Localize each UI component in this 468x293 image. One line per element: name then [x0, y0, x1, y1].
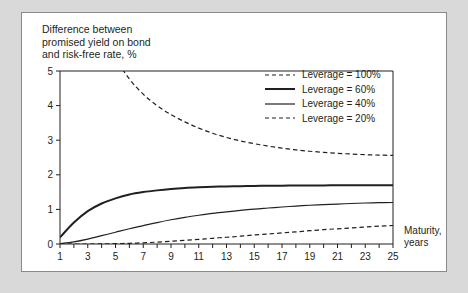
figure-panel: Difference between promised yield on bon… — [21, 12, 447, 272]
svg-text:5: 5 — [47, 66, 53, 77]
chart-legend: Leverage = 100% Leverage = 60% Leverage … — [265, 68, 415, 126]
svg-text:4: 4 — [47, 100, 53, 111]
svg-text:5: 5 — [113, 251, 119, 262]
svg-text:25: 25 — [387, 251, 399, 262]
series-line — [60, 225, 393, 244]
x-axis-label: Maturity, years — [404, 225, 442, 249]
legend-key-solid-thick-icon — [265, 84, 295, 94]
legend-item: Leverage = 100% — [265, 68, 415, 81]
legend-key-solid-thin-icon — [265, 99, 295, 109]
legend-item: Leverage = 40% — [265, 97, 415, 110]
svg-text:9: 9 — [168, 251, 174, 262]
plot-area: 012345135791113151719212325 — [22, 13, 448, 273]
svg-text:7: 7 — [140, 251, 146, 262]
svg-text:19: 19 — [304, 251, 316, 262]
legend-item: Leverage = 20% — [265, 112, 415, 125]
legend-key-dashed-icon — [265, 113, 295, 123]
legend-key-dashed-icon — [265, 70, 295, 80]
svg-text:21: 21 — [332, 251, 344, 262]
svg-text:15: 15 — [249, 251, 261, 262]
chart-canvas: 012345135791113151719212325 — [22, 13, 448, 273]
svg-text:13: 13 — [221, 251, 233, 262]
svg-text:0: 0 — [47, 239, 53, 250]
legend-item: Leverage = 60% — [265, 83, 415, 96]
svg-text:11: 11 — [194, 251, 205, 262]
svg-text:17: 17 — [276, 251, 288, 262]
legend-label: Leverage = 40% — [302, 98, 375, 109]
svg-text:3: 3 — [47, 135, 53, 146]
svg-text:3: 3 — [85, 251, 91, 262]
svg-text:2: 2 — [47, 169, 53, 180]
svg-text:1: 1 — [57, 251, 63, 262]
legend-label: Leverage = 100% — [302, 69, 381, 80]
svg-text:1: 1 — [47, 204, 53, 215]
legend-label: Leverage = 20% — [302, 113, 375, 124]
svg-text:23: 23 — [360, 251, 372, 262]
legend-label: Leverage = 60% — [302, 84, 375, 95]
